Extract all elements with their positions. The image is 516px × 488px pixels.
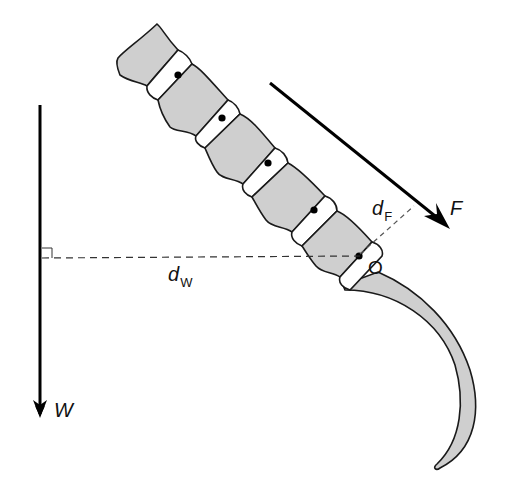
- label-moment-arm-w-base: d: [168, 263, 179, 285]
- force-arrowhead: [424, 203, 450, 229]
- right-angle-marker: [42, 248, 52, 258]
- vertebral-column: [117, 24, 383, 290]
- lever-diagram: F W dF dW O: [0, 0, 516, 488]
- diagram-graphic: [0, 0, 516, 488]
- joint-dot-2: [218, 114, 225, 121]
- label-moment-arm-w: dW: [168, 264, 192, 284]
- label-moment-arm-w-sub: W: [180, 275, 192, 290]
- joint-dot-1: [174, 71, 181, 78]
- label-pivot-o: O: [368, 258, 383, 277]
- label-moment-arm-f: dF: [372, 198, 392, 218]
- label-moment-arm-f-base: d: [372, 197, 383, 219]
- label-force-f: F: [450, 198, 462, 218]
- joint-dot-3: [264, 159, 271, 166]
- joint-dot-4: [310, 206, 317, 213]
- label-weight-w: W: [54, 400, 73, 420]
- claw-bone: [342, 272, 476, 469]
- label-moment-arm-f-sub: F: [384, 209, 392, 224]
